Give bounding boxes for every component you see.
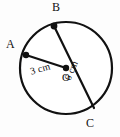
point-dot-a xyxy=(23,52,29,58)
circle-diagram-canvas xyxy=(0,0,120,137)
point-label-c: C xyxy=(86,117,94,129)
geometry-figure: A B C O 3 cm 6 cm xyxy=(0,0,120,137)
point-label-a: A xyxy=(6,38,15,50)
point-dot-b xyxy=(51,23,58,30)
point-label-b: B xyxy=(52,1,60,13)
